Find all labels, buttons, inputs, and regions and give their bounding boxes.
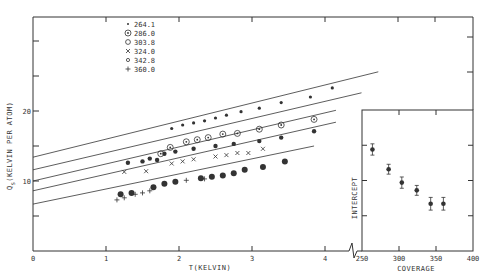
series-360-0 — [114, 176, 207, 202]
x-tick-label: 3 — [250, 255, 254, 263]
x-axis-label: T(KELVIN) — [189, 264, 231, 272]
legend-item-label: 342.8 — [134, 57, 155, 65]
y-axis-label: QS(KELVIN PER ATOM) — [6, 102, 16, 190]
x-tick-label: 1 — [104, 255, 108, 263]
inset-x-axis-label: COVERAGE — [397, 265, 435, 273]
legend-item-label: 303.8 — [134, 39, 155, 47]
x-tick-label: 4 — [323, 255, 327, 263]
series-342-8 — [118, 158, 288, 197]
fit-line — [33, 72, 378, 157]
legend-item-label: 324.0 — [134, 48, 155, 56]
inset-x-tick-label: 250 — [356, 255, 369, 263]
svg-text:QS(KELVIN PER ATOM): QS(KELVIN PER ATOM) — [6, 102, 16, 190]
legend-item-label: 360.0 — [134, 66, 155, 74]
y-tick-label: 20 — [23, 108, 31, 116]
legend-item-label: 286.0 — [134, 30, 155, 38]
chart-figure: 012341020 250300350400 T(KELVIN) QS(KELV… — [0, 0, 493, 279]
y-tick-label: 10 — [23, 178, 31, 186]
fit-line — [33, 146, 314, 204]
series-303-8 — [126, 129, 317, 165]
legend: 264.1286.0303.8324.0342.8360.0 — [125, 21, 155, 74]
inset-x-tick-label: 300 — [393, 255, 406, 263]
x-tick-label: 0 — [31, 255, 35, 263]
inset-y-axis-label: INTERCEPT — [351, 177, 359, 220]
x-tick-label: 2 — [177, 255, 181, 263]
inset-x-tick-label: 350 — [430, 255, 443, 263]
inset-plot: 250300350400 — [356, 110, 480, 263]
series-264-1 — [170, 86, 334, 130]
inset-x-tick-label: 400 — [467, 255, 480, 263]
legend-item-label: 264.1 — [134, 21, 155, 29]
